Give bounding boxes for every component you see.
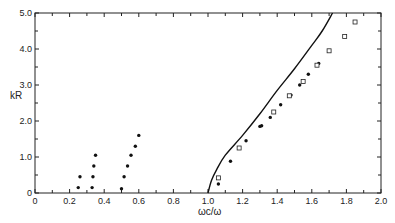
x-axis-label: ωc/ω — [198, 206, 222, 217]
data-point-filled-dot — [279, 103, 282, 106]
data-point-open-square — [216, 176, 220, 180]
data-point-filled-dot — [137, 134, 140, 137]
x-tick-label: 1.6 — [306, 196, 319, 206]
y-tick-label: 4.0 — [19, 44, 32, 54]
x-tick-label: 0.8 — [167, 196, 180, 206]
plot-frame — [35, 13, 381, 193]
data-points — [77, 20, 358, 190]
x-tick-label: 1.8 — [340, 196, 353, 206]
data-point-filled-dot — [92, 164, 95, 167]
data-point-open-square — [237, 146, 241, 150]
y-tick-label: 2.0 — [19, 116, 32, 126]
data-point-open-square — [301, 79, 305, 83]
data-point-filled-dot — [126, 164, 129, 167]
data-point-filled-dot — [307, 73, 310, 76]
data-point-filled-dot — [229, 160, 232, 163]
data-point-open-square — [353, 20, 357, 24]
data-point-open-square — [272, 110, 276, 114]
y-tick-label: 0 — [27, 188, 32, 198]
data-point-filled-dot — [134, 145, 137, 148]
y-axis-label: kR — [10, 90, 22, 101]
data-point-filled-dot — [90, 186, 93, 189]
data-point-filled-dot — [77, 186, 80, 189]
x-tick-label: 0.2 — [63, 196, 76, 206]
x-tick-label: 1.2 — [236, 196, 249, 206]
data-point-filled-dot — [78, 175, 81, 178]
data-point-filled-dot — [129, 154, 132, 157]
y-tick-label: 5.0 — [19, 8, 32, 18]
x-tick-label: 0 — [32, 196, 37, 206]
x-tick-label: 1.4 — [271, 196, 284, 206]
data-point-filled-dot — [298, 83, 301, 86]
y-axis: 01.02.03.04.05.0 — [19, 8, 381, 198]
data-point-open-square — [327, 49, 331, 53]
x-tick-label: 2.0 — [375, 196, 388, 206]
x-axis: 00.20.40.60.81.01.21.41.61.82.0 — [32, 13, 387, 206]
data-point-filled-dot — [269, 116, 272, 119]
chart: 00.20.40.60.81.01.21.41.61.82.0 01.02.03… — [0, 0, 395, 223]
data-point-filled-dot — [94, 154, 97, 157]
x-tick-label: 0.6 — [133, 196, 146, 206]
data-point-open-square — [315, 63, 319, 67]
data-point-filled-dot — [120, 187, 123, 190]
y-tick-label: 3.0 — [19, 80, 32, 90]
x-tick-label: 1.0 — [202, 196, 215, 206]
data-point-filled-dot — [122, 175, 125, 178]
data-point-filled-dot — [91, 175, 94, 178]
data-point-filled-dot — [260, 124, 263, 127]
theory-curve — [208, 13, 333, 193]
data-point-filled-dot — [244, 139, 247, 142]
x-tick-label: 0.4 — [98, 196, 111, 206]
y-tick-label: 1.0 — [19, 152, 32, 162]
data-point-open-square — [287, 94, 291, 98]
data-point-open-square — [343, 34, 347, 38]
data-point-filled-dot — [217, 182, 220, 185]
